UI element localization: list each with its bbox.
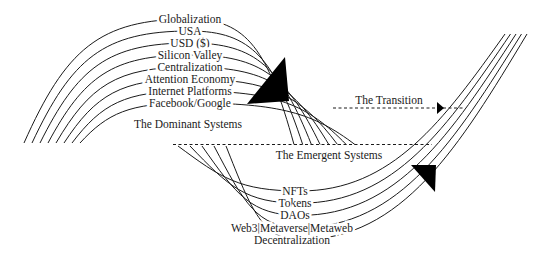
- dominant-layer-label: Globalization: [159, 13, 222, 25]
- dominant-layer-label: Centralization: [157, 61, 222, 73]
- dominant-layer-label: Facebook/Google: [149, 97, 231, 110]
- transition-label: The Transition: [355, 94, 423, 106]
- emergent-layer-label: NFTs: [282, 185, 308, 197]
- emergent-layer-label: Tokens: [278, 197, 312, 209]
- emergent-systems-title: The Emergent Systems: [276, 149, 383, 162]
- emergent-arc: [226, 34, 527, 240]
- emergent-system-arcs: [178, 34, 527, 240]
- dominant-layer-label: USA: [178, 25, 202, 37]
- dominant-layer-label: Internet Platforms: [148, 85, 232, 97]
- emergent-layer-labels: NFTsTokensDAOsWeb3|Metaverse|MetawebDece…: [231, 185, 353, 246]
- emergent-arc: [202, 34, 516, 215]
- emergent-layer-label: Decentralization: [254, 234, 330, 246]
- dominant-large-arrow-icon: [247, 57, 289, 104]
- transition-arrow-icon: [437, 102, 444, 114]
- emergent-layer-label: Web3|Metaverse|Metaweb: [231, 222, 353, 235]
- dominant-layer-labels: GlobalizationUSAUSD ($)Silicon ValleyCen…: [145, 13, 236, 110]
- s-curve-transition-diagram: GlobalizationUSAUSD ($)Silicon ValleyCen…: [0, 0, 549, 259]
- emergent-layer-label: DAOs: [280, 209, 310, 221]
- dominant-systems-title: The Dominant Systems: [134, 118, 242, 131]
